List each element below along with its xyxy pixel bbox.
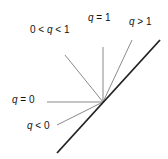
main-diagonal-line bbox=[57, 40, 160, 153]
label-q-equals-0: q = 0 bbox=[12, 94, 35, 105]
q-rays-diagram: 0 < q < 1 q = 1 q > 1 q = 0 q < 0 bbox=[0, 0, 168, 159]
label-q-less-0: q < 0 bbox=[27, 120, 50, 131]
label-q-greater-1: q > 1 bbox=[129, 16, 152, 27]
label-q-equals-1: q = 1 bbox=[88, 12, 111, 23]
label-q-between-0-1: 0 < q < 1 bbox=[30, 24, 70, 35]
ray-q-greater-1 bbox=[103, 40, 132, 102]
ray-q-between-0-1 bbox=[65, 55, 103, 102]
ray-q-less-0 bbox=[57, 102, 103, 125]
